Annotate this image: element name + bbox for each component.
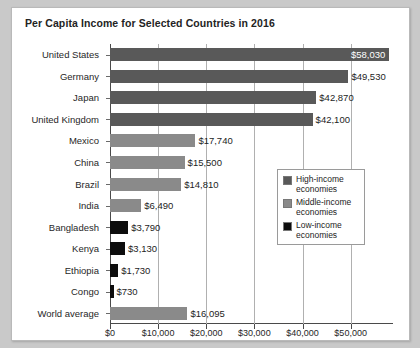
- bar: [110, 199, 141, 212]
- y-axis-tick: [106, 184, 110, 185]
- category-label: Bangladesh: [49, 221, 99, 234]
- legend-swatch-low: [283, 222, 292, 231]
- bar: [110, 242, 125, 255]
- y-axis-tick: [106, 249, 110, 250]
- chart-legend: High-income economiesMiddle-income econo…: [277, 169, 365, 245]
- bar-value-label: $6,490: [141, 199, 173, 212]
- category-label: United Kingdom: [31, 113, 99, 126]
- y-axis-tick: [106, 162, 110, 163]
- bar: [110, 221, 128, 234]
- bar: [110, 178, 181, 191]
- bar-value-label: $15,500: [185, 156, 222, 169]
- y-axis-tick: [106, 227, 110, 228]
- legend-label: Low-income economies: [296, 221, 359, 240]
- category-axis-labels: United StatesGermanyJapanUnited KingdomM…: [12, 44, 105, 324]
- bar-row: $1,730: [110, 264, 393, 277]
- legend-label: Middle-income economies: [296, 198, 359, 217]
- category-label: Brazil: [75, 178, 99, 191]
- bar-row: $17,740: [110, 134, 393, 147]
- bar: [110, 156, 185, 169]
- bar-value-label: $42,870: [316, 91, 353, 104]
- chart-title: Per Capita Income for Selected Countries…: [25, 17, 275, 29]
- chart-card: Per Capita Income for Selected Countries…: [11, 7, 410, 341]
- bar-row: $15,500: [110, 156, 393, 169]
- bar: [110, 307, 187, 320]
- category-label: Congo: [71, 285, 99, 298]
- bar-row: $16,095: [110, 307, 393, 320]
- y-axis-tick: [106, 55, 110, 56]
- y-axis-tick: [106, 206, 110, 207]
- legend-item: Low-income economies: [283, 221, 359, 240]
- bar-value-label: $3,130: [125, 242, 157, 255]
- y-axis-tick: [106, 98, 110, 99]
- y-axis-tick: [106, 270, 110, 271]
- category-label: Mexico: [69, 134, 99, 147]
- bar-value-label: $16,095: [187, 307, 224, 320]
- legend-label: High-income economies: [296, 175, 359, 194]
- bar-row: $42,100: [110, 113, 393, 126]
- bar: [110, 91, 316, 104]
- category-label: World average: [37, 307, 99, 320]
- x-axis-tick-label: $10,000: [142, 328, 175, 338]
- x-axis-tick-label: $0: [105, 328, 115, 338]
- legend-swatch-high: [283, 176, 292, 185]
- bar-row: $730: [110, 285, 393, 298]
- bar-value-label: $14,810: [181, 178, 218, 191]
- bar-value-label: $3,790: [128, 221, 160, 234]
- category-label: China: [74, 156, 99, 169]
- x-axis-tick-label: $40,000: [286, 328, 319, 338]
- category-label: United States: [42, 48, 99, 61]
- bar-value-label: $49,530: [348, 70, 385, 83]
- category-label: India: [78, 199, 99, 212]
- y-axis-tick: [106, 313, 110, 314]
- bar: [110, 70, 348, 83]
- category-label: Kenya: [72, 242, 99, 255]
- bar-row: $42,870: [110, 91, 393, 104]
- bar-value-label: $730: [114, 285, 138, 298]
- y-axis-tick: [106, 119, 110, 120]
- bar: [110, 134, 195, 147]
- bar-value-label: $42,100: [313, 113, 350, 126]
- legend-item: Middle-income economies: [283, 198, 359, 217]
- bar: [110, 113, 313, 126]
- bar-value-label: $1,730: [118, 264, 150, 277]
- x-axis-tick-label: $30,000: [238, 328, 271, 338]
- category-label: Germany: [60, 70, 99, 83]
- x-axis-tick-label: $20,000: [190, 328, 223, 338]
- legend-item: High-income economies: [283, 175, 359, 194]
- category-label: Ethiopia: [65, 264, 99, 277]
- y-axis-tick: [106, 141, 110, 142]
- category-label: Japan: [73, 91, 99, 104]
- bar-value-label: $58,030: [349, 48, 385, 61]
- bar: [110, 264, 118, 277]
- y-axis-tick: [106, 292, 110, 293]
- value-axis-labels: $0$10,000$20,000$30,000$40,000$50,000: [110, 328, 393, 342]
- y-axis-tick: [106, 76, 110, 77]
- bar-value-label: $17,740: [195, 134, 232, 147]
- x-axis-tick-label: $50,000: [334, 328, 367, 338]
- bar: [110, 48, 389, 61]
- legend-swatch-middle: [283, 199, 292, 208]
- bar-row: $58,030: [110, 48, 393, 61]
- bar-row: $49,530: [110, 70, 393, 83]
